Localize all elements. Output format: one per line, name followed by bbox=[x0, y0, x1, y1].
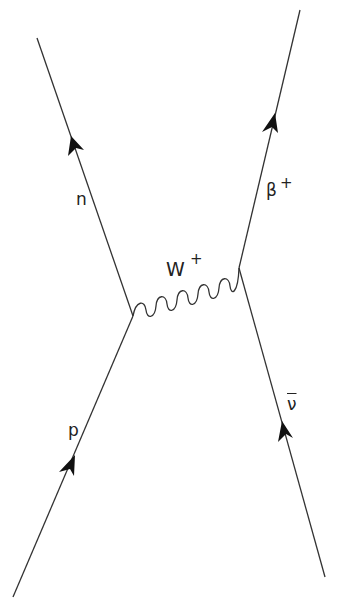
w-boson-label: W bbox=[166, 260, 185, 279]
positron-label: β bbox=[266, 182, 277, 199]
neutron-label: n bbox=[76, 191, 87, 208]
neutron-arrow-icon bbox=[68, 136, 84, 156]
antineutrino-label: ν bbox=[287, 396, 297, 413]
positron-charge: + bbox=[280, 176, 293, 191]
feynman-diagram bbox=[0, 0, 346, 598]
neutron-line bbox=[37, 38, 133, 316]
proton-line bbox=[13, 316, 133, 597]
antineutrino-arrow-icon bbox=[278, 421, 293, 442]
proton-arrow-icon bbox=[59, 455, 75, 476]
w-boson-charge: + bbox=[190, 252, 203, 267]
positron-line bbox=[239, 10, 300, 268]
w-boson-wavy-line bbox=[133, 268, 239, 316]
proton-label: p bbox=[68, 422, 79, 439]
